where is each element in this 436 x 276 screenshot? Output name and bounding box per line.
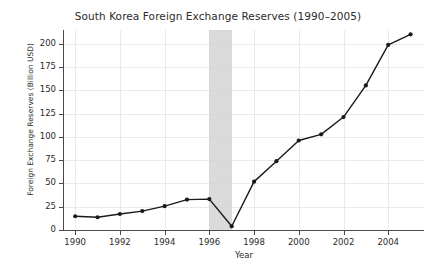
x-tick-mark-1994 — [165, 231, 166, 235]
y-tick-mark-75 — [59, 160, 63, 161]
data-point-2002 — [341, 115, 345, 119]
data-point-1990 — [73, 214, 77, 218]
data-point-1999 — [274, 159, 278, 163]
x-tick-mark-2004 — [388, 231, 389, 235]
series-line-foreign-exchange-reserves — [64, 30, 424, 230]
x-tick-label-1998: 1998 — [234, 237, 274, 247]
plot-area — [64, 30, 424, 230]
y-axis-line — [63, 30, 64, 231]
data-point-1996 — [207, 197, 211, 201]
data-point-markers — [73, 32, 413, 228]
x-tick-mark-1990 — [75, 231, 76, 235]
x-tick-mark-1996 — [209, 231, 210, 235]
x-tick-mark-1998 — [254, 231, 255, 235]
x-tick-mark-1992 — [120, 231, 121, 235]
x-tick-label-1994: 1994 — [145, 237, 185, 247]
y-tick-mark-150 — [59, 90, 63, 91]
x-tick-label-2004: 2004 — [368, 237, 408, 247]
chart-figure: South Korea Foreign Exchange Reserves (1… — [0, 0, 436, 276]
data-point-1992 — [118, 212, 122, 216]
y-tick-mark-25 — [59, 207, 63, 208]
line-path — [75, 34, 410, 226]
data-point-2000 — [297, 138, 301, 142]
data-point-2004 — [386, 43, 390, 47]
x-tick-mark-2002 — [344, 231, 345, 235]
y-tick-label-175: 175 — [16, 61, 56, 71]
data-point-2003 — [364, 83, 368, 87]
y-tick-mark-175 — [59, 67, 63, 68]
y-tick-label-50: 50 — [16, 177, 56, 187]
y-tick-mark-100 — [59, 137, 63, 138]
y-tick-label-150: 150 — [16, 84, 56, 94]
data-point-1991 — [95, 215, 99, 219]
x-tick-label-1990: 1990 — [55, 237, 95, 247]
x-tick-label-2000: 2000 — [279, 237, 319, 247]
y-tick-mark-125 — [59, 114, 63, 115]
x-tick-mark-2000 — [299, 231, 300, 235]
y-tick-mark-0 — [59, 230, 63, 231]
x-tick-label-1996: 1996 — [189, 237, 229, 247]
data-point-1998 — [252, 180, 256, 184]
y-tick-label-75: 75 — [16, 154, 56, 164]
data-point-2005 — [408, 32, 412, 36]
y-tick-label-25: 25 — [16, 201, 56, 211]
y-tick-label-0: 0 — [16, 224, 56, 234]
y-tick-label-100: 100 — [16, 131, 56, 141]
y-tick-mark-50 — [59, 183, 63, 184]
chart-title: South Korea Foreign Exchange Reserves (1… — [0, 10, 436, 22]
data-point-1997 — [230, 224, 234, 228]
y-tick-label-200: 200 — [16, 38, 56, 48]
y-tick-mark-200 — [59, 44, 63, 45]
data-point-1995 — [185, 197, 189, 201]
y-axis-label: Foreign Exchange Reserves (Billion USD) — [26, 20, 35, 220]
x-tick-label-2002: 2002 — [324, 237, 364, 247]
data-point-1993 — [140, 209, 144, 213]
data-point-1994 — [163, 204, 167, 208]
x-axis-line — [63, 230, 424, 231]
x-axis-label: Year — [64, 250, 424, 260]
y-tick-label-125: 125 — [16, 108, 56, 118]
x-tick-label-1992: 1992 — [100, 237, 140, 247]
data-point-2001 — [319, 132, 323, 136]
